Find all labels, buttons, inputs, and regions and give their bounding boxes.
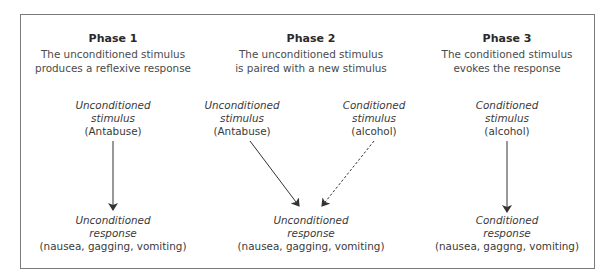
- phase-2-solid-arrow-icon: [250, 141, 299, 206]
- phase-2-dashed-arrow-icon: [322, 141, 374, 206]
- arrows-layer: [0, 0, 615, 280]
